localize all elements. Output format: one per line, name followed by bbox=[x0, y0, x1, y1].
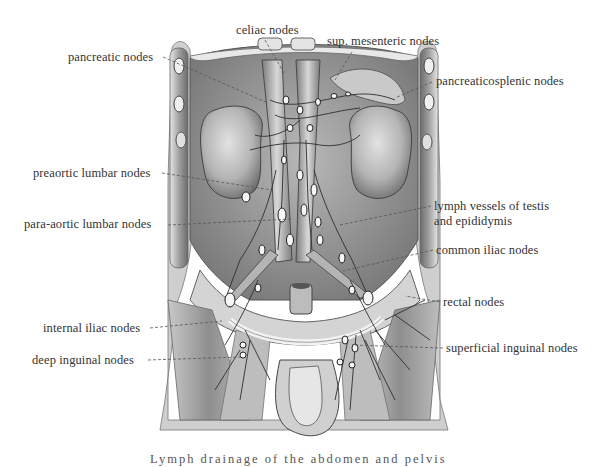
label-common-iliac-nodes: common iliac nodes bbox=[436, 243, 538, 258]
label-lymph-vessels-testis: lymph vessels of testis and epididymis bbox=[434, 199, 549, 229]
label-deep-inguinal-nodes: deep inguinal nodes bbox=[32, 353, 134, 368]
lower-region bbox=[168, 300, 440, 436]
label-celiac-nodes: celiac nodes bbox=[236, 23, 299, 38]
label-superficial-inguinal-nodes: superficial inguinal nodes bbox=[446, 341, 578, 356]
label-pancreatic-nodes: pancreatic nodes bbox=[68, 50, 153, 65]
figure-caption: Lymph drainage of the abdomen and pelvis bbox=[150, 452, 447, 467]
label-lymph-vessels-testis-line1: lymph vessels of testis bbox=[434, 199, 549, 214]
label-internal-iliac-nodes: internal iliac nodes bbox=[43, 321, 140, 336]
label-rectal-nodes: rectal nodes bbox=[443, 295, 504, 310]
label-preaortic-lumbar-nodes: preaortic lumbar nodes bbox=[33, 166, 150, 181]
label-para-aortic-lumbar-nodes: para-aortic lumbar nodes bbox=[24, 217, 151, 232]
label-pancreaticosplenic-nodes: pancreaticosplenic nodes bbox=[436, 74, 564, 89]
label-sup-mesenteric-nodes: sup. mesenteric nodes bbox=[327, 34, 439, 49]
label-lymph-vessels-testis-line2: and epididymis bbox=[434, 214, 549, 229]
